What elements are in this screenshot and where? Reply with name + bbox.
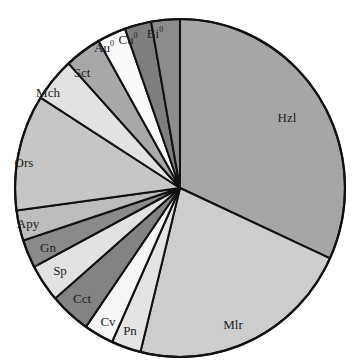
pie-chart: HzlMlrPnCvCctSpGnApyOrsMchSctAu0Cu0Bi0 bbox=[0, 0, 354, 364]
slice-label-cct: Cct bbox=[73, 291, 91, 306]
slice-label-superscript: 0 bbox=[159, 25, 163, 34]
slice-label-mch: Mch bbox=[36, 85, 60, 100]
slice-label-superscript: 0 bbox=[134, 31, 138, 40]
slice-label-superscript: 0 bbox=[110, 39, 114, 48]
slice-label-gn: Gn bbox=[40, 240, 56, 255]
slice-label-sct: Sct bbox=[74, 65, 91, 80]
slice-label-cv: Cv bbox=[100, 314, 116, 329]
slice-label-apy: Apy bbox=[17, 216, 40, 231]
slice-label-sp: Sp bbox=[53, 263, 67, 278]
slice-label-mlr: Mlr bbox=[223, 317, 243, 332]
pie-slices bbox=[15, 19, 345, 357]
slice-label-hzl: Hzl bbox=[278, 110, 297, 125]
slice-label-pn: Pn bbox=[123, 323, 137, 338]
slice-label-ors: Ors bbox=[15, 155, 34, 170]
